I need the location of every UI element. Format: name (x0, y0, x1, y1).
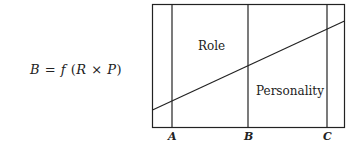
axis-label-c: C (323, 130, 332, 143)
axis-label-b: B (243, 130, 253, 143)
axis-label-a: A (167, 130, 177, 143)
region-label-personality: Personality (256, 84, 324, 98)
role-personality-diagram: Role Personality A B C (0, 0, 354, 148)
region-label-role: Role (198, 39, 225, 53)
